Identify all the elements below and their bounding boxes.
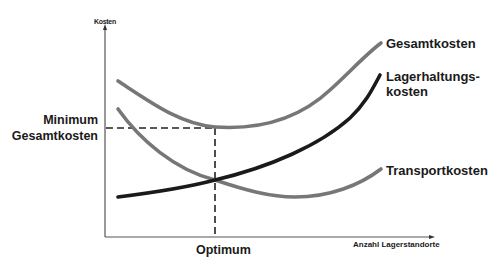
- min-cost-label-line2: Gesamtkosten: [12, 128, 98, 144]
- min-cost-label: Minimum Gesamtkosten: [12, 112, 98, 144]
- optimum-label: Optimum: [196, 243, 251, 257]
- gesamtkosten-label: Gesamtkosten: [386, 36, 476, 51]
- x-axis-arrow-icon: [429, 235, 435, 239]
- lagerhaltungskosten-label: Lagerhaltungs- kosten: [386, 69, 480, 99]
- transportkosten-curve: [118, 109, 381, 197]
- y-axis-label: Kosten: [94, 18, 116, 25]
- gesamtkosten-curve: [118, 43, 381, 127]
- x-axis-label: Anzahl Lagerstandorte: [353, 240, 440, 249]
- transportkosten-label: Transportkosten: [386, 163, 488, 178]
- lagerhaltungskosten-curve: [118, 75, 380, 197]
- min-cost-label-line1: Minimum: [12, 112, 98, 128]
- lagerhaltungskosten-label-line1: Lagerhaltungs-: [386, 69, 480, 84]
- lagerhaltungskosten-label-line2: kosten: [386, 84, 480, 99]
